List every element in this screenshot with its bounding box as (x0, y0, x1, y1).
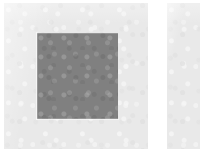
page-margin-left (0, 0, 4, 149)
panel-gutter: Panel gutter (148, 0, 167, 149)
square-bottom-edge-highlight (36, 118, 119, 120)
canvas: Gray fill square Primary panel Panel gut… (0, 0, 200, 149)
page-margin-top (0, 0, 200, 3)
primary-panel[interactable]: Gray fill square Primary panel (4, 3, 148, 149)
secondary-panel[interactable]: Secondary panel (167, 3, 200, 149)
panel-sheen-overlay (167, 3, 200, 149)
fill-square-label: Gray fill square (36, 32, 37, 33)
square-left-edge-highlight (36, 32, 38, 120)
square-grain-texture (37, 33, 118, 119)
square-top-edge-highlight (37, 33, 118, 34)
fill-square[interactable]: Gray fill square (37, 33, 118, 119)
panel-grain-texture (167, 3, 200, 149)
